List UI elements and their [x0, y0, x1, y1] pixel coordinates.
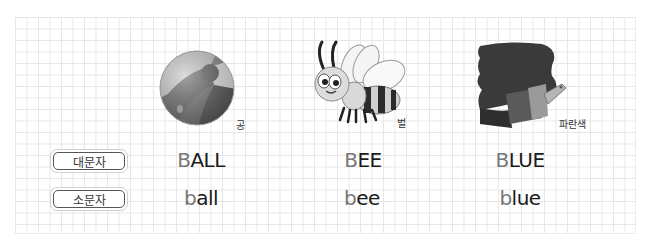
caption-ball: 공	[236, 117, 245, 132]
rest-letters: ee	[356, 186, 380, 210]
rest-letters: LUE	[509, 148, 545, 172]
beach-ball-icon	[158, 49, 236, 127]
word-upper-bee: BEE	[344, 148, 382, 172]
word-upper-ball: BALL	[177, 148, 225, 172]
word-lower-ball: ball	[184, 186, 218, 210]
rest-letters: EE	[357, 148, 381, 172]
first-letter: B	[344, 148, 357, 172]
first-letter: b	[344, 186, 356, 210]
lowercase-label: 소문자	[50, 187, 128, 211]
first-letter: B	[495, 148, 508, 172]
word-upper-blue: BLUE	[495, 148, 544, 172]
blue-paint-brush-icon	[470, 38, 570, 130]
rest-letters: lue	[512, 186, 541, 210]
first-letter: b	[499, 186, 511, 210]
bee-icon	[302, 38, 410, 133]
uppercase-label: 대문자	[50, 149, 128, 173]
word-lower-bee: bee	[344, 186, 380, 210]
caption-bee: 벌	[397, 115, 406, 130]
uppercase-label-text: 대문자	[53, 152, 125, 170]
word-lower-blue: blue	[499, 186, 540, 210]
first-letter: B	[177, 148, 190, 172]
rest-letters: ALL	[190, 148, 224, 172]
first-letter: b	[184, 186, 196, 210]
lowercase-label-text: 소문자	[53, 190, 125, 208]
caption-blue: 파란색	[559, 116, 586, 131]
rest-letters: all	[196, 186, 218, 210]
